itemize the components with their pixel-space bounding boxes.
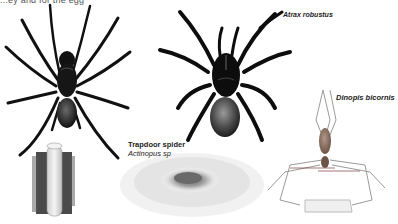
- illustration-page: ...ey and for the egg: [0, 0, 398, 224]
- dinopis-abdomen: [319, 128, 331, 154]
- label-trapdoor-scientific: Actinopus sp: [128, 149, 185, 158]
- label-dinopis-bicornis: Dinopis bicornis: [336, 93, 395, 102]
- label-trapdoor-spider: Trapdoor spider Actinopus sp: [128, 140, 185, 158]
- label-atrax-robustus: Atrax robustus: [283, 10, 333, 19]
- trapdoor-abdomen: [57, 98, 77, 128]
- funnel-burrow-illustration: [120, 153, 264, 217]
- label-trapdoor-common: Trapdoor spider: [128, 140, 185, 149]
- trapdoor-burrow-illustration: [32, 143, 75, 216]
- dinopis-cephalothorax: [321, 156, 329, 168]
- spider-illustrations: [0, 0, 398, 224]
- atrax-abdomen: [210, 97, 240, 137]
